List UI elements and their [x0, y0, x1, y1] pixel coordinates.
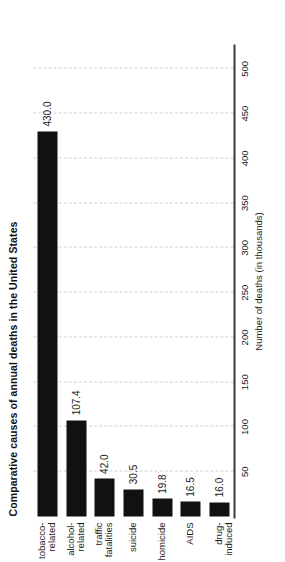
bar — [209, 502, 229, 516]
bar-value-label: 107.4 — [70, 390, 81, 415]
bar — [180, 501, 200, 516]
bar-value-label: 19.8 — [156, 474, 167, 493]
x-tick-label: 350 — [238, 195, 249, 211]
bar-value-label: 42.0 — [98, 454, 109, 473]
category-label: drug-induced — [213, 522, 233, 562]
gridline — [33, 425, 233, 426]
category-label: tobacco- related — [36, 522, 56, 562]
x-tick-label: 50 — [238, 466, 249, 477]
category-label: suicide — [127, 522, 137, 562]
category-label: traffic fatalities — [93, 522, 113, 562]
bar — [66, 420, 86, 516]
gridline — [33, 112, 233, 113]
x-tick-label: 200 — [238, 329, 249, 345]
gridline — [33, 381, 233, 382]
bar — [152, 498, 172, 516]
gridline — [33, 202, 233, 203]
category-label: homicide — [156, 522, 166, 562]
gridline — [33, 67, 233, 68]
bar — [94, 478, 114, 516]
bar — [123, 489, 143, 516]
bar-value-label: 30.5 — [127, 464, 138, 483]
bar — [37, 131, 57, 516]
x-axis-label: Number of deaths (in thousands) — [252, 46, 263, 516]
rotated-figure: Comparative causes of annual deaths in t… — [0, 0, 285, 562]
chart-canvas: Comparative causes of annual deaths in t… — [0, 0, 285, 562]
gridline — [33, 291, 233, 292]
x-tick-label: 450 — [238, 105, 249, 121]
x-tick-label: 400 — [238, 150, 249, 166]
plot-area — [33, 46, 233, 516]
bar-value-label: 16.0 — [213, 477, 224, 496]
x-tick-label: 250 — [238, 284, 249, 300]
x-tick-label: 150 — [238, 374, 249, 390]
gridline — [33, 157, 233, 158]
bar-value-label: 430.0 — [41, 101, 52, 126]
category-label: AIDS — [184, 522, 194, 562]
bar-value-label: 16.5 — [184, 477, 195, 496]
category-label: alcohol- related — [65, 522, 85, 562]
chart-title: Comparative causes of annual deaths in t… — [6, 221, 18, 516]
x-tick-label: 500 — [238, 60, 249, 76]
gridline — [33, 246, 233, 247]
value-axis-line — [233, 44, 235, 518]
gridline — [33, 336, 233, 337]
x-tick-label: 300 — [238, 240, 249, 256]
x-tick-label: 100 — [238, 419, 249, 435]
